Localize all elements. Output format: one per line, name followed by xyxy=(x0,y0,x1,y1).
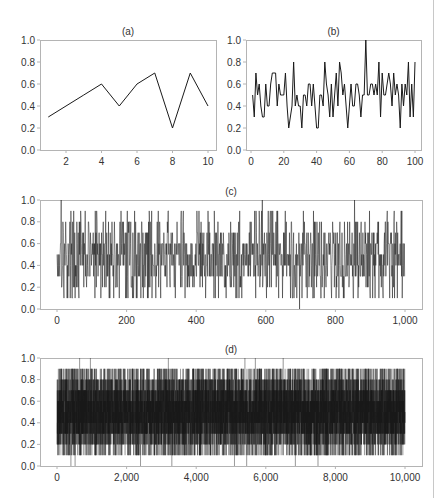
x-tick-label: 8,000 xyxy=(323,472,348,483)
x-tick-label: 6,000 xyxy=(253,472,278,483)
y-tick-label: 1.0 xyxy=(21,35,35,46)
panel-title: (d) xyxy=(225,344,237,355)
x-tick-label: 4,000 xyxy=(184,472,209,483)
x-tick-label: 10 xyxy=(202,156,214,167)
x-tick-label: 8 xyxy=(170,156,176,167)
axes-frame xyxy=(247,41,422,151)
y-tick-label: 0.2 xyxy=(21,439,35,450)
y-tick-label: 0.4 xyxy=(21,417,35,428)
data-line xyxy=(57,200,405,309)
x-tick-label: 2 xyxy=(63,156,69,167)
y-tick-label: 0.0 xyxy=(227,145,241,156)
x-tick-label: 400 xyxy=(188,315,205,326)
data-line xyxy=(57,358,405,466)
y-tick-label: 1.0 xyxy=(21,353,35,364)
y-tick-label: 0.0 xyxy=(21,304,35,315)
figure: (a)0.00.20.40.60.81.0246810 (b)0.00.20.4… xyxy=(0,0,442,498)
x-tick-label: 4 xyxy=(99,156,105,167)
panel-b: (b)0.00.20.40.60.81.0020406080100 xyxy=(227,26,424,167)
x-tick-label: 60 xyxy=(344,156,356,167)
y-tick-label: 0.6 xyxy=(227,79,241,90)
x-tick-label: 10,000 xyxy=(390,472,421,483)
panel-a: (a)0.00.20.40.60.81.0246810 xyxy=(21,26,216,167)
y-tick-label: 0.0 xyxy=(21,461,35,472)
x-tick-label: 600 xyxy=(257,315,274,326)
x-tick-label: 800 xyxy=(327,315,344,326)
y-tick-label: 1.0 xyxy=(227,35,241,46)
y-tick-label: 0.4 xyxy=(21,260,35,271)
y-tick-label: 0.8 xyxy=(21,57,35,68)
x-tick-label: 6 xyxy=(134,156,140,167)
y-tick-label: 0.8 xyxy=(21,216,35,227)
y-tick-label: 1.0 xyxy=(21,195,35,206)
x-tick-label: 80 xyxy=(377,156,389,167)
x-tick-label: 20 xyxy=(278,156,290,167)
panel-d: (d)0.00.20.40.60.81.002,0004,0006,0008,0… xyxy=(21,344,422,483)
x-tick-label: 200 xyxy=(118,315,135,326)
y-tick-label: 0.4 xyxy=(21,101,35,112)
x-tick-label: 1,000 xyxy=(392,315,417,326)
page-edge-divider xyxy=(433,0,434,498)
y-tick-label: 0.4 xyxy=(227,101,241,112)
x-tick-label: 40 xyxy=(311,156,323,167)
y-tick-label: 0.8 xyxy=(21,374,35,385)
panel-title: (a) xyxy=(122,26,134,37)
data-line xyxy=(48,73,208,128)
y-tick-label: 0.0 xyxy=(21,145,35,156)
panel-title: (b) xyxy=(327,26,339,37)
y-tick-label: 0.2 xyxy=(21,282,35,293)
y-tick-label: 0.8 xyxy=(227,57,241,68)
y-tick-label: 0.6 xyxy=(21,79,35,90)
x-tick-label: 2,000 xyxy=(114,472,139,483)
x-tick-label: 0 xyxy=(54,315,60,326)
y-tick-label: 0.6 xyxy=(21,396,35,407)
x-tick-label: 0 xyxy=(248,156,254,167)
x-tick-label: 100 xyxy=(407,156,424,167)
x-tick-label: 0 xyxy=(54,472,60,483)
axes-frame xyxy=(41,41,217,151)
y-tick-label: 0.2 xyxy=(21,123,35,134)
panel-c: (c)0.00.20.40.60.81.002004006008001,000 xyxy=(21,186,422,326)
data-line xyxy=(253,40,415,128)
y-tick-label: 0.6 xyxy=(21,238,35,249)
panel-title: (c) xyxy=(225,186,237,197)
y-tick-label: 0.2 xyxy=(227,123,241,134)
